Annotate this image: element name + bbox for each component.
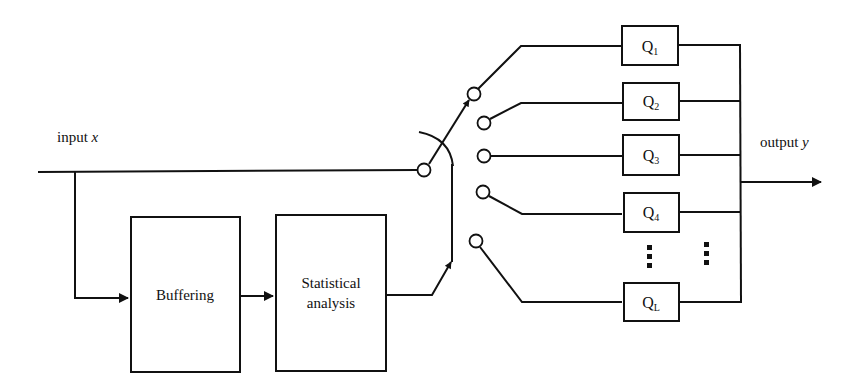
selector-node-4 [477, 186, 490, 199]
selector-node-L [470, 235, 483, 248]
selector-node-2 [478, 117, 491, 130]
output-bus [740, 44, 741, 303]
statistical-label-line2: analysis [307, 295, 355, 311]
selector-node-3 [478, 150, 491, 163]
input-label: input x [57, 129, 99, 145]
ellipsis-quantizers [647, 245, 652, 268]
wire-to-q2 [490, 103, 622, 119]
buffering-label: Buffering [156, 287, 215, 303]
quantizer-qL: QL [624, 283, 679, 321]
quantizer-q1: Q1 [622, 26, 678, 65]
quantizer-q3: Q3 [623, 135, 679, 175]
wire-to-q1 [478, 46, 622, 89]
control-signal-line [386, 262, 451, 295]
quantizer-q4: Q4 [624, 193, 679, 232]
output-label: output y [760, 134, 809, 150]
statistical-label-line1: Statistical [301, 275, 360, 291]
switch-arm [429, 100, 469, 164]
branch-to-buffering [75, 172, 128, 298]
wire-to-q4 [489, 196, 622, 214]
switch-arc [419, 132, 453, 166]
ellipsis-outputs [704, 242, 709, 265]
statistical-analysis-block: Statistical analysis [276, 215, 386, 371]
wire-to-qL [480, 247, 622, 302]
input-line [38, 170, 418, 172]
quantizer-selection-diagram: input x Buffering Statistical analysis Q… [0, 0, 854, 388]
quantizer-q2: Q2 [623, 83, 679, 120]
switch-input-node [418, 164, 431, 177]
buffering-block: Buffering [131, 217, 240, 372]
